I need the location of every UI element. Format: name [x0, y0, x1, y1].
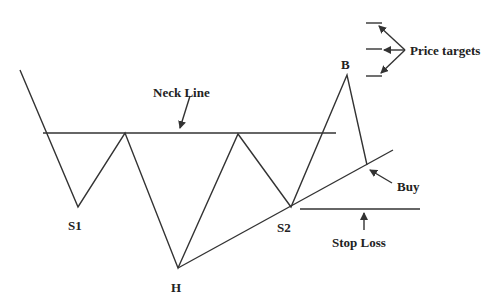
buy-label: Buy	[397, 180, 419, 193]
s1-label: S1	[68, 219, 82, 232]
price-target-arrow-bottom-icon	[381, 50, 405, 73]
price-targets-label: Price targets	[410, 44, 480, 57]
neck-line-arrow-icon	[180, 96, 190, 128]
h-label: H	[171, 281, 181, 294]
buy-arrow-icon	[370, 170, 392, 183]
price-target-arrow-top-icon	[379, 26, 405, 50]
neck-line-label: Neck Line	[153, 86, 210, 99]
b-label: B	[341, 58, 350, 71]
s2-label: S2	[277, 221, 291, 234]
stop-loss-label: Stop Loss	[332, 236, 386, 249]
